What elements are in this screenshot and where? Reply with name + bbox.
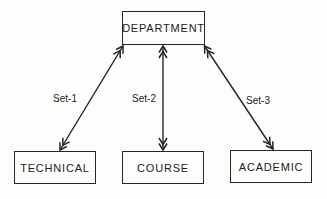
node-department-label: DEPARTMENT xyxy=(122,22,205,34)
node-course: COURSE xyxy=(122,151,204,184)
edge-label-set-3: Set-3 xyxy=(246,95,270,106)
diagram-canvas: DEPARTMENT TECHNICAL COURSE ACADEMIC Set… xyxy=(0,0,327,199)
node-technical: TECHNICAL xyxy=(14,151,96,184)
edge-label-set-2: Set-2 xyxy=(132,93,156,104)
node-technical-label: TECHNICAL xyxy=(20,162,90,174)
node-academic: ACADEMIC xyxy=(230,150,312,183)
node-academic-label: ACADEMIC xyxy=(239,161,303,173)
node-department: DEPARTMENT xyxy=(122,11,205,45)
edge-label-set-1: Set-1 xyxy=(53,93,77,104)
node-course-label: COURSE xyxy=(137,162,189,174)
